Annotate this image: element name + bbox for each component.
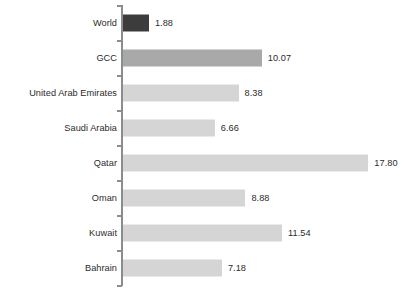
- bar: [123, 84, 239, 101]
- bar-series: World1.88GCC10.07United Arab Emirates8.3…: [0, 0, 419, 299]
- bar-row: Bahrain7.18: [0, 250, 419, 285]
- bar-row: United Arab Emirates8.38: [0, 75, 419, 110]
- bar-value-label: 1.88: [155, 17, 173, 28]
- bar: [123, 189, 245, 206]
- bar-value-label: 10.07: [268, 52, 291, 63]
- plot-area: World1.88GCC10.07United Arab Emirates8.3…: [0, 0, 419, 299]
- bar-value-label: 8.88: [251, 192, 269, 203]
- bar-row: Oman8.88: [0, 180, 419, 215]
- category-label: Saudi Arabia: [64, 122, 117, 133]
- bar-value-label: 17.80: [374, 157, 397, 168]
- bar-value-label: 7.18: [228, 262, 246, 273]
- bar: [123, 49, 262, 66]
- bar-row: Kuwait11.54: [0, 215, 419, 250]
- bar-value-label: 8.38: [245, 87, 263, 98]
- bar-row: GCC10.07: [0, 40, 419, 75]
- category-label: Qatar: [94, 157, 117, 168]
- bar-row: Qatar17.80: [0, 145, 419, 180]
- bar: [123, 224, 282, 241]
- bar: [123, 259, 222, 276]
- bar-row: Saudi Arabia6.66: [0, 110, 419, 145]
- category-label: GCC: [96, 52, 117, 63]
- bar-value-label: 6.66: [221, 122, 239, 133]
- category-label: Kuwait: [89, 227, 117, 238]
- category-label: World: [93, 17, 117, 28]
- category-label: Bahrain: [85, 262, 117, 273]
- bar: [123, 154, 368, 171]
- bar: [123, 14, 149, 31]
- bar-value-label: 11.54: [288, 227, 311, 238]
- category-label: Oman: [92, 192, 117, 203]
- bar-row: World1.88: [0, 5, 419, 40]
- bar: [123, 119, 215, 136]
- bar-chart: World1.88GCC10.07United Arab Emirates8.3…: [0, 0, 419, 299]
- category-label: United Arab Emirates: [29, 87, 117, 98]
